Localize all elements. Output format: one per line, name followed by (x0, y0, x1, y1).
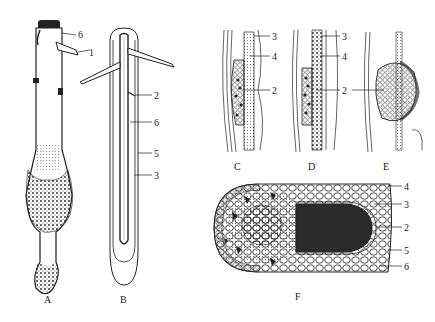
label-d-4: 4 (342, 51, 347, 62)
panel-c-pericycle-division: 3 4 2 C (223, 30, 277, 172)
caption-a: A (44, 294, 52, 305)
panel-f-cross-section: 4 3 2 5 6 F (214, 181, 409, 302)
caption-c: C (234, 161, 241, 172)
label-d-2: 2 (342, 85, 347, 96)
label-a-1: 1 (89, 47, 94, 58)
label-f-4: 4 (404, 181, 409, 192)
panel-e-emerging-root: 2 E (352, 32, 422, 172)
label-c-4: 4 (272, 51, 277, 62)
label-c-3: 3 (272, 31, 277, 42)
label-b-3: 3 (154, 170, 159, 181)
panel-d-primordium: 3 4 2 D (292, 30, 347, 172)
panel-b-longitudinal-section: 2 6 5 3 B (80, 28, 174, 305)
label-f-5: 5 (404, 245, 409, 256)
label-b-2: 2 (154, 90, 159, 101)
label-f-6: 6 (404, 261, 409, 272)
caption-e: E (383, 161, 389, 172)
label-f-2: 2 (404, 222, 409, 233)
panel-a-root-exterior: 6 1 A (26, 20, 94, 305)
label-d-3: 3 (342, 31, 347, 42)
lateral-root-diagram: 6 1 A 2 6 5 3 B 3 4 2 (0, 0, 435, 322)
label-b-6: 6 (154, 117, 159, 128)
caption-f: F (295, 291, 301, 302)
caption-d: D (308, 161, 315, 172)
label-a-6: 6 (78, 29, 83, 40)
label-f-3: 3 (404, 199, 409, 210)
label-b-5: 5 (154, 148, 159, 159)
caption-b: B (120, 294, 127, 305)
label-c-2: 2 (272, 85, 277, 96)
